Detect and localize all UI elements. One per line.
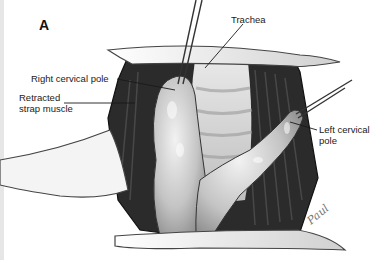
label-trachea: Trachea	[231, 14, 266, 25]
label-left-cervical-pole: Left cervical pole	[319, 124, 370, 146]
label-retracted-strap-muscle: Retracted strap muscle	[19, 92, 73, 114]
label-line-2: strap muscle	[19, 103, 73, 114]
label-line-1: Retracted	[19, 92, 73, 103]
label-line-1: Left cervical	[319, 124, 370, 135]
label-right-cervical-pole: Right cervical pole	[31, 73, 109, 84]
panel-letter: A	[39, 17, 49, 33]
surgical-illustration: A Trachea Right cervical pole Retracted …	[0, 0, 383, 260]
label-line-2: pole	[319, 135, 370, 146]
